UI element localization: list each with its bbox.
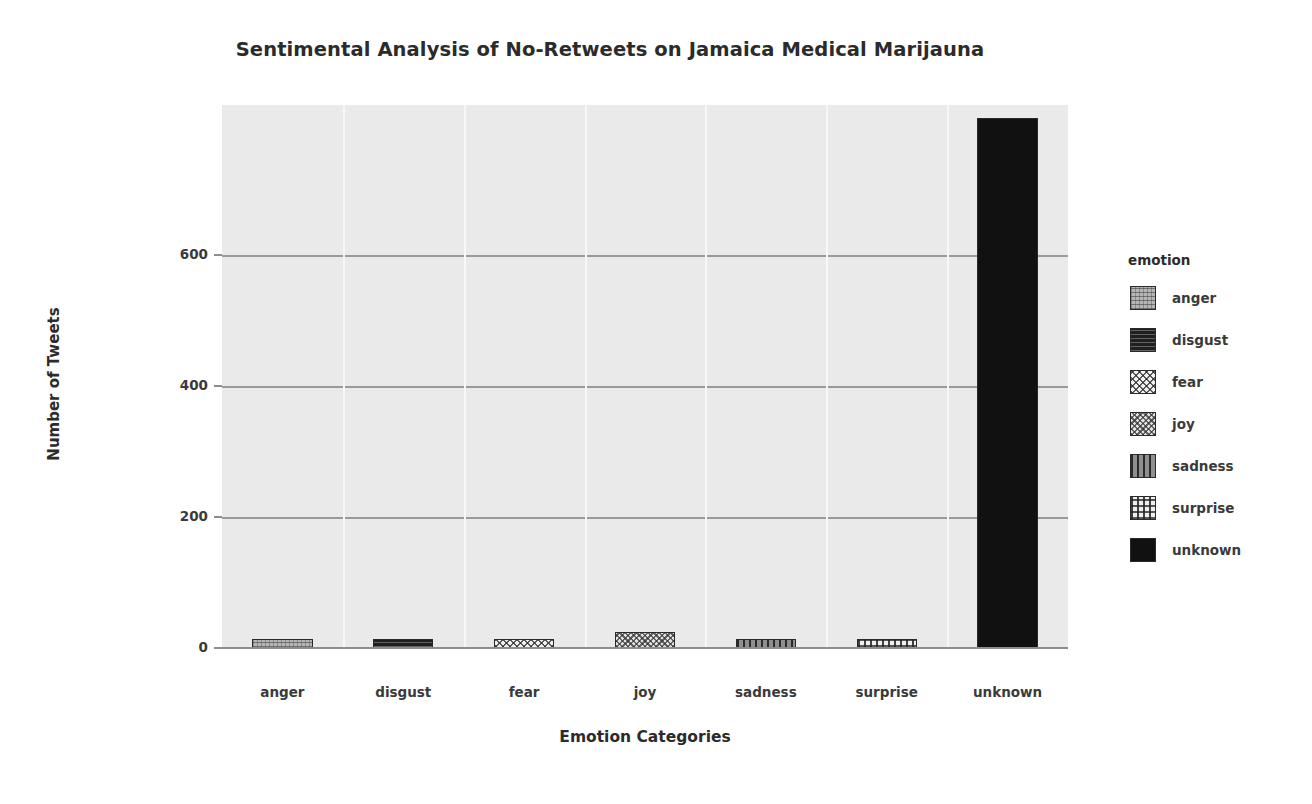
chart-title: Sentimental Analysis of No-Retweets on J… bbox=[160, 38, 1060, 61]
bar-joy[interactable] bbox=[615, 632, 675, 648]
legend-label-sadness: sadness bbox=[1172, 458, 1234, 474]
x-axis-label: Emotion Categories bbox=[222, 728, 1068, 746]
legend-swatch-anger bbox=[1130, 286, 1156, 310]
legend-swatch-unknown bbox=[1130, 538, 1156, 562]
y-tick-mark bbox=[214, 385, 222, 387]
y-tick-mark bbox=[214, 254, 222, 256]
x-tick-label-joy: joy bbox=[585, 684, 706, 700]
x-tick-label-anger: anger bbox=[222, 684, 343, 700]
x-tick-label-unknown: unknown bbox=[947, 684, 1068, 700]
y-tick-mark bbox=[214, 516, 222, 518]
legend-label-unknown: unknown bbox=[1172, 542, 1241, 558]
gridline-vertical bbox=[585, 105, 587, 648]
y-tick-label-400: 400 bbox=[130, 377, 208, 393]
legend-swatch-joy bbox=[1130, 412, 1156, 436]
x-tick-label-surprise: surprise bbox=[826, 684, 947, 700]
x-axis-line bbox=[222, 647, 1068, 649]
y-tick-label-0: 0 bbox=[130, 639, 208, 655]
gridline-vertical bbox=[343, 105, 345, 648]
plot-area bbox=[222, 105, 1068, 648]
legend-label-anger: anger bbox=[1172, 290, 1216, 306]
legend-swatch-surprise bbox=[1130, 496, 1156, 520]
y-axis-label: Number of Tweets bbox=[45, 284, 63, 484]
legend-swatch-sadness bbox=[1130, 454, 1156, 478]
gridline-400 bbox=[222, 386, 1068, 388]
legend-swatch-disgust bbox=[1130, 328, 1156, 352]
bar-unknown[interactable] bbox=[977, 118, 1037, 648]
gridline-vertical bbox=[826, 105, 828, 648]
legend-title: emotion bbox=[1128, 252, 1190, 268]
legend-label-surprise: surprise bbox=[1172, 500, 1234, 516]
gridline-vertical bbox=[947, 105, 949, 648]
legend-swatch-fear bbox=[1130, 370, 1156, 394]
legend-label-disgust: disgust bbox=[1172, 332, 1228, 348]
y-tick-label-600: 600 bbox=[130, 246, 208, 262]
x-tick-label-fear: fear bbox=[464, 684, 585, 700]
legend-label-joy: joy bbox=[1172, 416, 1195, 432]
gridline-vertical bbox=[464, 105, 466, 648]
x-tick-label-disgust: disgust bbox=[343, 684, 464, 700]
legend-label-fear: fear bbox=[1172, 374, 1203, 390]
gridline-vertical bbox=[705, 105, 707, 648]
x-tick-label-sadness: sadness bbox=[705, 684, 826, 700]
chart-figure: Sentimental Analysis of No-Retweets on J… bbox=[0, 0, 1312, 804]
y-tick-mark bbox=[214, 647, 222, 649]
y-tick-label-200: 200 bbox=[130, 508, 208, 524]
gridline-200 bbox=[222, 517, 1068, 519]
gridline-600 bbox=[222, 255, 1068, 257]
